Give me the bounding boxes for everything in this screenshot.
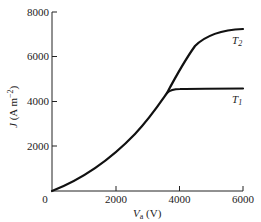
curve-T2 — [52, 29, 243, 191]
y-tick-label-4000: 4000 — [27, 95, 50, 107]
x-tick-label-4000: 4000 — [169, 193, 192, 205]
series-label-T2: T2 — [232, 34, 242, 48]
y-axis-label: J (A m−2) — [6, 86, 20, 128]
series-label-T1: T1 — [232, 93, 242, 107]
chart: 8000 6000 4000 2000 0 2000 4000 6000 Va … — [0, 0, 261, 222]
x-ticks — [116, 186, 243, 191]
y-ticks — [52, 12, 57, 146]
x-axis-label: Va (V) — [133, 207, 162, 221]
x-tick-label-2000: 2000 — [105, 193, 128, 205]
y-tick-label-2000: 2000 — [27, 140, 50, 152]
y-tick-label-6000: 6000 — [27, 50, 50, 62]
y-tick-label-8000: 8000 — [27, 6, 50, 18]
x-tick-label-6000: 6000 — [232, 193, 255, 205]
origin-label: 0 — [42, 193, 48, 205]
